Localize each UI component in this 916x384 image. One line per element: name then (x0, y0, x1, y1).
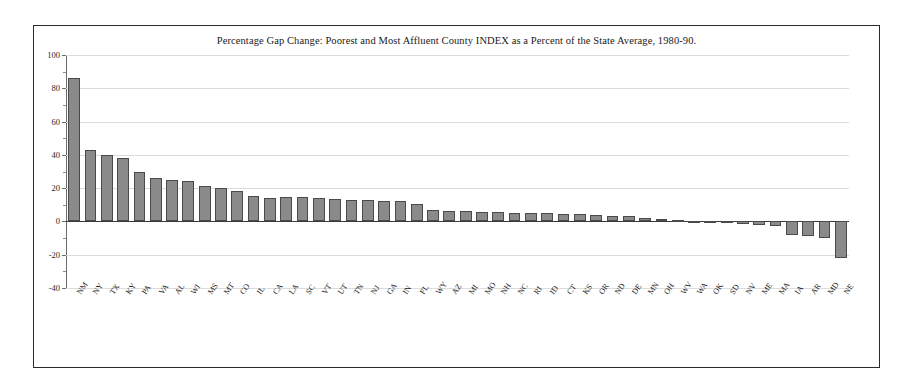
y-axis-tick (62, 288, 66, 289)
bar (753, 221, 765, 224)
bar (721, 221, 733, 223)
bar (150, 178, 162, 221)
bar (737, 221, 749, 223)
bar (264, 198, 276, 221)
bar (68, 78, 80, 221)
bar (639, 218, 651, 221)
bar (166, 180, 178, 222)
bar (378, 201, 390, 222)
bar (541, 213, 553, 221)
bar (460, 211, 472, 221)
bar (607, 216, 619, 222)
bar (770, 221, 782, 226)
y-axis-label: 40 (52, 150, 61, 160)
bar (411, 204, 423, 221)
bar (704, 221, 716, 223)
y-axis-label: 60 (52, 117, 61, 127)
y-axis-label: 0 (56, 216, 60, 226)
bar (329, 199, 341, 221)
bar (182, 181, 194, 221)
bar (574, 214, 586, 221)
bar (656, 219, 668, 221)
bar (492, 212, 504, 221)
bar (802, 221, 814, 235)
chart-title: Percentage Gap Change: Poorest and Most … (34, 35, 879, 46)
bar (509, 213, 521, 221)
chart-figure: Percentage Gap Change: Poorest and Most … (33, 25, 880, 368)
y-axis-label: 100 (47, 50, 60, 60)
bar (476, 212, 488, 221)
bar (362, 200, 374, 222)
bar (525, 213, 537, 221)
bar (248, 196, 260, 221)
bar (819, 221, 831, 238)
y-axis-label: -40 (49, 283, 60, 293)
bars-layer (66, 55, 849, 288)
y-axis-label: -20 (49, 250, 60, 260)
bar (427, 210, 439, 222)
bar (280, 197, 292, 221)
bar (346, 200, 358, 222)
bar (313, 198, 325, 221)
bar (215, 188, 227, 221)
plot-area: 100806040200-20-40 (66, 55, 849, 288)
x-axis-labels: NMNYTXKYPAVAALWIMSMTCOILCALASCVTUTTNNJGA… (66, 291, 849, 361)
bar (623, 216, 635, 221)
bar (395, 201, 407, 221)
bar (199, 186, 211, 221)
y-axis-label: 80 (52, 83, 61, 93)
bar (117, 158, 129, 221)
bar (134, 172, 146, 222)
bar (443, 211, 455, 222)
y-axis-label: 20 (52, 183, 61, 193)
bar (672, 220, 684, 222)
bar (590, 215, 602, 222)
bar (835, 221, 847, 258)
bar (101, 155, 113, 222)
bar (786, 221, 798, 234)
bar (297, 197, 309, 221)
bar (558, 214, 570, 221)
bar (688, 221, 700, 223)
bar (231, 191, 243, 221)
bar (85, 150, 97, 222)
